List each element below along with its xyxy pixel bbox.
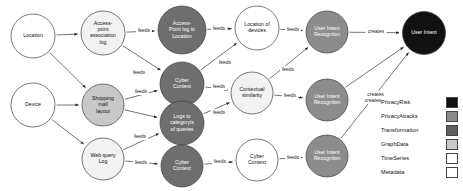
edge-label: feeds [282, 66, 295, 72]
node-label-line: Context [248, 159, 266, 165]
node-ap-log-to-loc[interactable]: Access-Point log toLocation [158, 6, 206, 54]
legend: PrivacyRiskPrivacyAttacksTransformationG… [381, 95, 461, 179]
legend-item-metadata: Metadata [381, 165, 461, 179]
node-uir-3[interactable]: User IntentRecogniton [306, 135, 348, 177]
edge-label: feeds [134, 133, 147, 139]
legend-swatch [446, 111, 458, 122]
node-uir-2[interactable]: User IntentRecogniton [306, 79, 348, 121]
node-label-line: point [97, 26, 109, 32]
node-label-line: similarity [242, 92, 263, 98]
node-label-line: User Intent [314, 93, 340, 99]
edge-label: feeds [138, 27, 151, 33]
node-label-line: Point log to [169, 26, 195, 32]
node-label-line: Recogniton [314, 99, 340, 105]
edge-label: feeds [213, 83, 226, 89]
knowledge-graph-diagram: LocationDeviceAccess-pointassociationlog… [0, 0, 463, 191]
legend-swatch [446, 153, 458, 164]
node-label-line: mall [98, 101, 108, 107]
node-cyber-context-out[interactable]: CyberContext [236, 139, 278, 181]
node-shopping-mall[interactable]: Shoppingmalllayout [82, 84, 124, 126]
node-label-line: Contextual [240, 86, 265, 92]
legend-label: GraphData [381, 141, 408, 147]
edge-label: feeds [135, 88, 148, 94]
edge-label: creates [365, 97, 382, 103]
node-device[interactable]: Device [11, 83, 55, 127]
node-label-line: log [100, 39, 107, 45]
node-label-line: Logs to [173, 113, 190, 119]
edge-contextual-sim-to-uir-1 [269, 47, 308, 78]
node-label-line: Cyber [175, 159, 189, 165]
node-cyber-context-t1[interactable]: CyberContext [160, 62, 204, 106]
node-label-line: Cyber [175, 77, 189, 83]
node-label-line: Access- [173, 20, 192, 26]
node-uir-1[interactable]: User IntentRecogniton [306, 11, 348, 53]
edge-label: feeds [214, 158, 227, 164]
node-label-line: Access- [94, 20, 113, 26]
edge-device-to-web-query-log [52, 119, 84, 144]
edge-location-to-ap-assoc-log [56, 34, 77, 35]
legend-label: PrivacyRisk [381, 99, 410, 105]
node-label-line: Location [23, 32, 43, 38]
node-label-line: categoryis [170, 119, 194, 125]
node-user-intent[interactable]: User Intent [403, 12, 446, 55]
legend-label: TimeSeries [381, 155, 409, 161]
edge-label: feeds [133, 69, 146, 75]
node-label-line: User Intent [314, 25, 340, 31]
edge-uir-2-to-user-intent [346, 47, 404, 87]
edge-label: feeds [135, 159, 148, 165]
edge-label: feeds [213, 25, 226, 31]
node-location[interactable]: Location [11, 14, 55, 58]
legend-item-privacyrisk: PrivacyRisk [381, 95, 461, 109]
edge-label: feeds [287, 26, 300, 32]
node-label-line: Log [99, 158, 108, 164]
legend-item-privacyattacks: PrivacyAttacks [381, 109, 461, 123]
node-label-line: Location of [244, 21, 270, 27]
node-label-line: Recogniton [314, 155, 340, 161]
node-label-line: layout [96, 108, 110, 114]
node-cyber-context-t2[interactable]: CyberContext [161, 145, 203, 187]
legend-label: PrivacyAttacks [381, 113, 418, 119]
node-label-line: devices [248, 27, 266, 33]
legend-label: Metadata [381, 169, 404, 175]
edge-ap-assoc-log-to-cyber-context-t1 [123, 46, 161, 70]
edge-shopping-mall-to-logs-to-categoryis [125, 110, 157, 117]
node-label-line: Cyber [250, 153, 264, 159]
edge-label: feeds [219, 59, 232, 65]
node-label-line: Location [172, 33, 192, 39]
legend-item-graphdata: GraphData [381, 137, 461, 151]
node-label-line: Context [173, 83, 191, 89]
edge-label: feeds [284, 92, 297, 98]
legend-swatch [446, 97, 458, 108]
node-contextual-sim[interactable]: Contextualsimilarity [231, 72, 273, 114]
legend-item-timeseries: TimeSeries [381, 151, 461, 165]
node-label-line: Web query [91, 152, 116, 158]
legend-item-transformation: Transformation [381, 123, 461, 137]
node-label-line: Device [25, 101, 41, 107]
node-label-line: Recogniton [314, 31, 340, 37]
legend-swatch [446, 125, 458, 136]
legend-swatch [446, 139, 458, 150]
node-label-line: Shopping [92, 95, 114, 101]
node-logs-to-categoryis[interactable]: Logs tocategoryisof queries [160, 101, 204, 145]
edge-label: feeds [287, 154, 300, 160]
node-label-line: association [90, 32, 116, 38]
node-location-of-dev[interactable]: Location ofdevices [235, 6, 279, 50]
edge-label: creates [368, 28, 385, 34]
edge-location-to-shopping-mall [50, 52, 86, 87]
edge-label: feeds [213, 109, 226, 115]
node-ap-assoc-log[interactable]: Access-pointassociationlog [81, 11, 125, 55]
node-label-line: of queries [171, 126, 194, 132]
node-web-query-log[interactable]: Web queryLog [82, 138, 124, 180]
node-label-line: Context [173, 165, 191, 171]
node-label-line: User Intent [314, 149, 340, 155]
legend-swatch [446, 167, 458, 178]
node-label-line: User Intent [411, 29, 437, 35]
legend-label: Transformation [381, 127, 418, 133]
